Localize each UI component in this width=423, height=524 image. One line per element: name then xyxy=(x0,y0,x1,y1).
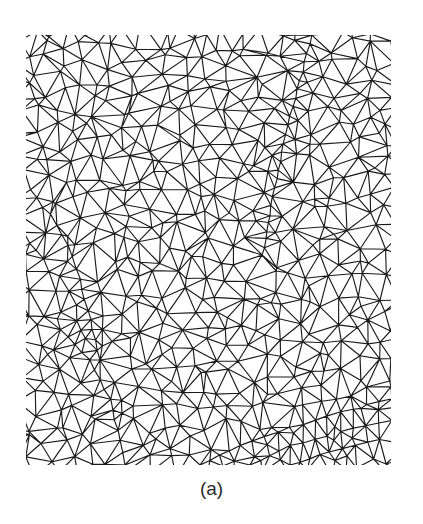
triangle-mesh-wireframe xyxy=(0,0,423,524)
mesh-edges xyxy=(0,5,419,483)
mesh-edge-path xyxy=(0,5,419,483)
mesh-figure: (a) xyxy=(0,0,423,524)
figure-caption: (a) xyxy=(0,478,423,500)
